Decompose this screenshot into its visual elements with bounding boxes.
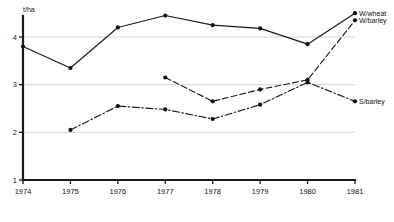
- x-tick-label: 1980: [299, 187, 316, 196]
- x-tick-label: 1976: [110, 187, 127, 196]
- data-point-marker: [305, 80, 309, 84]
- data-point-marker: [211, 99, 215, 103]
- data-point-marker: [258, 103, 262, 107]
- ytick-labels-group: 1234: [13, 33, 17, 185]
- line-chart-figure: 1234 19741975197619771978197919801981 W/…: [0, 0, 394, 222]
- series-line-s-barley: [70, 82, 355, 130]
- data-point-marker: [116, 104, 120, 108]
- data-point-marker: [258, 26, 262, 30]
- data-point-marker: [353, 11, 357, 15]
- chart-plot-area: 1234 19741975197619771978197919801981 W/…: [0, 0, 394, 222]
- y-tick-label: 4: [13, 33, 17, 42]
- data-point-marker: [163, 107, 167, 111]
- series-label-s-barley: S/barley: [359, 98, 385, 106]
- y-tick-label: 2: [13, 128, 17, 137]
- data-point-marker: [353, 99, 357, 103]
- gridlines-group: [23, 37, 355, 132]
- x-tick-label: 1981: [347, 187, 364, 196]
- axes-group: [23, 16, 355, 180]
- series-label-w-wheat: W/wheat: [359, 10, 386, 17]
- series-label-w-barley: W/barley: [359, 17, 387, 25]
- data-point-marker: [305, 42, 309, 46]
- series-lines-group: [23, 13, 355, 130]
- data-point-marker: [21, 44, 25, 48]
- x-tick-label: 1977: [157, 187, 174, 196]
- data-point-marker: [163, 75, 167, 79]
- y-tick-label: 3: [13, 80, 17, 89]
- data-point-marker: [116, 25, 120, 29]
- y-axis-unit-label: t/ha: [23, 6, 35, 13]
- data-point-marker: [258, 87, 262, 91]
- data-point-marker: [353, 18, 357, 22]
- data-point-marker: [211, 117, 215, 121]
- data-point-marker: [163, 13, 167, 17]
- x-tick-label: 1975: [62, 187, 79, 196]
- data-point-marker: [68, 128, 72, 132]
- x-tick-label: 1974: [15, 187, 32, 196]
- x-tick-label: 1979: [252, 187, 269, 196]
- series-labels-group: W/wheatW/barleyS/barley: [359, 10, 387, 106]
- data-point-marker: [68, 66, 72, 70]
- y-tick-label: 1: [13, 176, 17, 185]
- xtick-labels-group: 19741975197619771978197919801981: [15, 187, 364, 196]
- x-tick-label: 1978: [204, 187, 221, 196]
- series-line-w-wheat: [23, 13, 355, 68]
- data-point-marker: [211, 23, 215, 27]
